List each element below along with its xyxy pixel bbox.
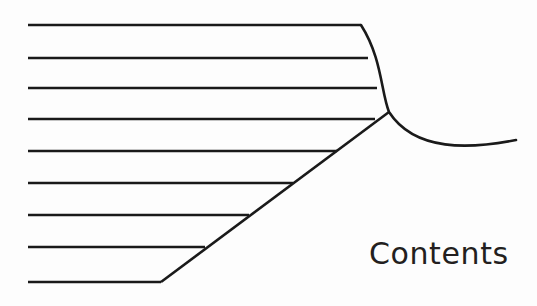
page-title: Contents bbox=[369, 239, 509, 269]
swoosh-curve bbox=[361, 25, 516, 146]
page-canvas: Contents bbox=[0, 0, 537, 306]
diagonal-edge-line bbox=[161, 112, 389, 282]
